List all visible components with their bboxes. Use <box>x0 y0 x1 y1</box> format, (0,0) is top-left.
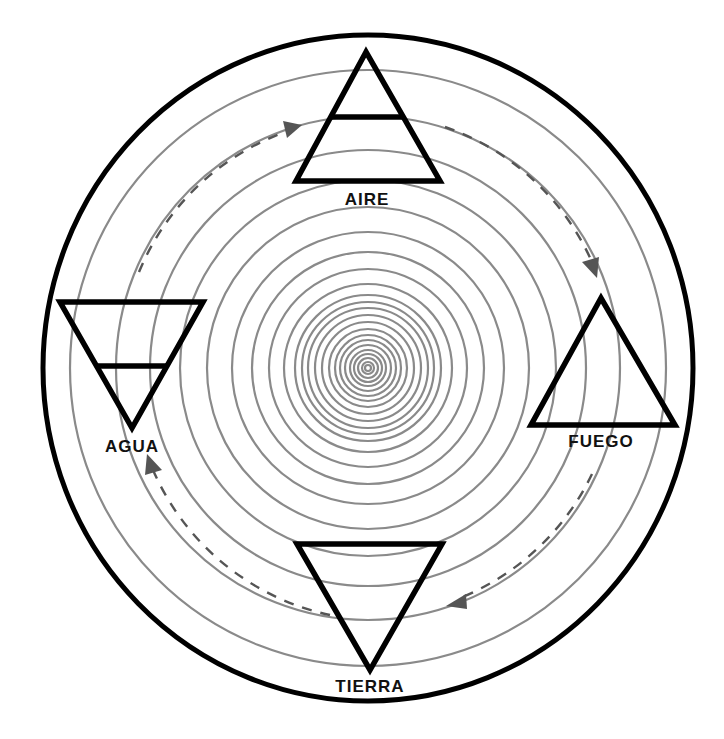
arrow-fuego-to-tierra <box>460 474 592 598</box>
ring <box>180 180 556 556</box>
ring <box>362 362 374 374</box>
ring <box>207 207 529 529</box>
ring <box>284 284 452 452</box>
element-fuego: FUEGO <box>531 298 675 451</box>
arrow-head-icon <box>145 454 162 475</box>
ring <box>150 150 586 586</box>
label-fuego: FUEGO <box>568 432 633 451</box>
ring <box>308 308 428 428</box>
arrow-head-icon <box>582 257 599 278</box>
label-tierra: TIERRA <box>335 677 404 696</box>
ring <box>340 340 396 396</box>
element-agua: AGUA <box>60 302 203 456</box>
arrow-head-icon <box>283 121 302 138</box>
label-aire: AIRE <box>345 190 390 209</box>
ring <box>295 295 441 441</box>
ring <box>269 269 467 467</box>
ring <box>315 315 421 421</box>
ring <box>252 252 484 484</box>
element-aire: AIRE <box>296 52 440 209</box>
label-agua: AGUA <box>105 437 159 456</box>
ring <box>365 365 371 371</box>
ring <box>350 350 386 386</box>
ring <box>345 345 391 391</box>
elements-cycle-diagram: AIRE FUEGO TIERRA AGUA <box>0 0 724 739</box>
ring <box>232 232 504 504</box>
earth-triangle-icon <box>297 544 442 670</box>
